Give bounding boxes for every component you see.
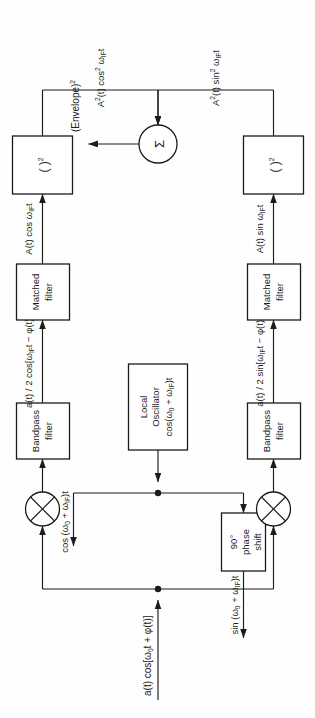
lo-cos-label: cos (ω0 + ωIF)t: [58, 491, 71, 553]
svg-text:Matched: Matched: [29, 274, 40, 310]
squarer-upper-output-label: A2(t) cos2 ωIFt: [93, 48, 107, 107]
svg-text:a(t) / 2 cos[ωIFt − φ(t)]: a(t) / 2 cos[ωIFt − φ(t)]: [22, 316, 35, 408]
matched-upper-output-label: A(t) cos ωIFt: [22, 203, 35, 255]
svg-text:Local: Local: [137, 396, 148, 419]
block-diagram-svg: a(t) cos[ω0t + φ(t)] Local Oscillator co…: [0, 0, 315, 718]
svg-text:filter: filter: [273, 283, 284, 301]
svg-text:90°: 90°: [227, 535, 238, 550]
matched-lower-output-label: A(t) sin ωIFt: [253, 204, 266, 253]
svg-text:A(t) cos ωIFt: A(t) cos ωIFt: [22, 203, 35, 255]
svg-text:sin (ω0 + ωIF)t: sin (ω0 + ωIF)t: [228, 575, 241, 634]
svg-text:A2(t) cos2 ωIFt: A2(t) cos2 ωIFt: [93, 48, 107, 107]
bandpass-upper-output-label: a(t) / 2 cos[ωIFt − φ(t)]: [22, 316, 35, 408]
svg-text:A2(t) sin2 ωIFt: A2(t) sin2 ωIFt: [208, 50, 222, 106]
svg-text:filter: filter: [42, 422, 53, 440]
summer-symbol: Σ: [151, 140, 166, 148]
lo-sin-label: sin (ω0 + ωIF)t: [228, 575, 241, 634]
svg-text:Oscillator: Oscillator: [149, 387, 160, 427]
svg-text:filter: filter: [273, 422, 284, 440]
figure-page: a(t) cos[ω0t + φ(t)] Local Oscillator co…: [0, 0, 315, 718]
output-label: (Envelope)2: [68, 80, 80, 132]
svg-text:a(t) cos[ω0t + φ(t)]: a(t) cos[ω0t + φ(t)]: [141, 615, 154, 696]
squarer-lower-output-label: A2(t) sin2 ωIFt: [208, 50, 222, 106]
svg-text:phase: phase: [239, 529, 250, 555]
bandpass-lower-output-label: a(t) / 2 sin[ωIFt − φ(t)]: [253, 317, 266, 406]
svg-text:Bandpass: Bandpass: [29, 410, 40, 453]
svg-text:cos (ω0 + ωIF)t: cos (ω0 + ωIF)t: [58, 491, 71, 553]
svg-text:A(t) sin ωIFt: A(t) sin ωIFt: [253, 204, 266, 253]
svg-text:a(t) / 2 sin[ωIFt − φ(t)]: a(t) / 2 sin[ωIFt − φ(t)]: [253, 317, 266, 406]
mixer-lower[interactable]: [256, 492, 290, 526]
svg-text:shift: shift: [251, 533, 262, 551]
svg-text:filter: filter: [42, 283, 53, 301]
lo-distribution-bus: [73, 493, 243, 546]
svg-text:Bandpass: Bandpass: [260, 410, 271, 453]
svg-text:(Envelope)2: (Envelope)2: [68, 80, 80, 132]
rotated-diagram-container: a(t) cos[ω0t + φ(t)] Local Oscillator co…: [0, 0, 315, 718]
mixer-upper[interactable]: [25, 492, 59, 526]
input-signal-label: a(t) cos[ω0t + φ(t)]: [141, 615, 154, 696]
svg-text:Matched: Matched: [260, 274, 271, 310]
